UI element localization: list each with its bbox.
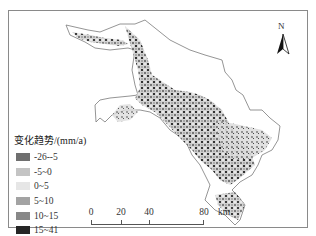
legend-label: 0~5 bbox=[34, 181, 49, 191]
scale-line bbox=[91, 220, 204, 225]
scale-tick bbox=[149, 220, 150, 224]
legend-swatch bbox=[16, 153, 30, 161]
legend-label: 10~15 bbox=[34, 211, 58, 221]
scale-unit: km bbox=[218, 207, 230, 217]
legend: 变化趋势/(mm/a) -26--5 -5~0 0~5 5~10 10~15 1… bbox=[14, 132, 86, 236]
legend-swatch bbox=[16, 197, 30, 205]
legend-swatch bbox=[16, 182, 30, 190]
legend-item: 5~10 bbox=[14, 194, 86, 209]
scale-tick-label: 20 bbox=[116, 207, 126, 217]
legend-swatch bbox=[16, 212, 30, 220]
scale-tick-label: 40 bbox=[144, 207, 154, 217]
legend-label: -26--5 bbox=[34, 152, 58, 162]
legend-item: 0~5 bbox=[14, 179, 86, 194]
scale-tick-label: 80 bbox=[199, 207, 209, 217]
legend-item: 10~15 bbox=[14, 208, 86, 223]
legend-swatch bbox=[16, 168, 30, 176]
legend-label: 15~41 bbox=[34, 225, 58, 235]
north-arrow-label: N bbox=[278, 21, 285, 31]
legend-item: 15~41 bbox=[14, 223, 86, 236]
scale-bar: 0 20 40 80 km bbox=[88, 207, 216, 227]
scale-tick-label: 0 bbox=[89, 207, 94, 217]
legend-swatch bbox=[16, 226, 30, 234]
legend-item: -26--5 bbox=[14, 150, 86, 165]
legend-label: 5~10 bbox=[34, 196, 53, 206]
legend-item: -5~0 bbox=[14, 165, 86, 180]
legend-label: -5~0 bbox=[34, 167, 52, 177]
legend-title: 变化趋势/(mm/a) bbox=[14, 132, 86, 147]
scale-tick bbox=[121, 220, 122, 224]
